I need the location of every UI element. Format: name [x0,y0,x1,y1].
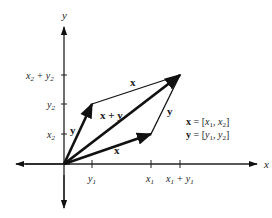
label-vector-y: y [70,124,76,136]
tick-label-x1: x1 [145,173,154,186]
x-axis-label: x [263,158,269,170]
label-translated-y: y [167,105,173,117]
definition-y: y = [y1, y2] [186,129,229,142]
tick-label-y2: y2 [46,99,55,112]
y-axis-label: y [61,9,67,21]
vector-addition-diagram: y x x2 + y2 y2 x2 y1 x1 x1 + y1 x y x + … [0,0,272,218]
translated-vector-x [92,75,180,104]
label-vector-x: x [114,144,120,156]
tick-label-x1-plus-y1: x1 + y1 [165,173,194,186]
tick-label-x2-plus-y2: x2 + y2 [25,70,54,83]
label-translated-x: x [130,76,136,88]
label-vector-sum: x + y [100,109,123,121]
tick-label-x2: x2 [46,129,55,142]
translated-vector-y [151,75,180,134]
tick-label-y1: y1 [87,173,96,186]
definition-x: x = [x1, x2] [186,116,229,129]
